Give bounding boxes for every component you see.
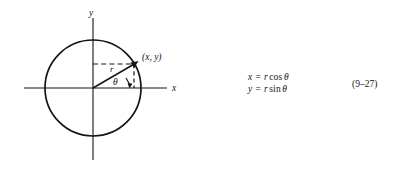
figure-page: y x r θ (x, y) x=rcosθ y=rsinθ (9–27) [0, 0, 415, 172]
radius-arrowhead [131, 61, 139, 68]
equation-y-equals: = [252, 84, 264, 94]
equation-line-x: x=rcosθ [248, 72, 289, 84]
point-label: (x, y) [142, 52, 162, 63]
equation-y-function: sin [268, 84, 281, 94]
equation-line-y: y=rsinθ [248, 84, 289, 96]
equation-number: (9–27) [352, 79, 377, 89]
angle-label: θ [113, 77, 118, 87]
y-axis-label: y [88, 8, 94, 18]
equation-x-angle: θ [282, 72, 288, 82]
radius-label: r [110, 64, 114, 74]
equation-block: x=rcosθ y=rsinθ [248, 72, 289, 95]
equation-x-equals: = [252, 72, 264, 82]
x-axis-label: x [171, 83, 177, 93]
equation-y-angle: θ [281, 84, 287, 94]
equation-x-function: cos [268, 72, 283, 82]
